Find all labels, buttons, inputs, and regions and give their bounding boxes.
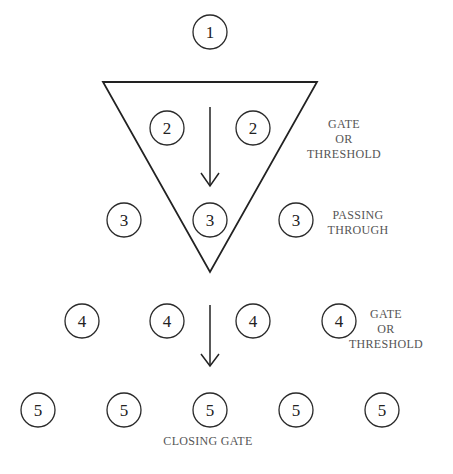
svg-text:OR: OR — [377, 322, 394, 336]
gate-threshold-label-bottom: GATE OR THRESHOLD — [349, 307, 423, 351]
gate-threshold-label-top: GATE OR THRESHOLD — [307, 117, 381, 161]
closing-gate-label: CLOSING GATE — [163, 434, 252, 448]
stage-3-node-right: 3 — [279, 203, 313, 237]
down-arrow-icon — [201, 305, 219, 366]
stage-4-node-1: 4 — [65, 304, 99, 338]
stage-3-node-left: 3 — [107, 203, 141, 237]
svg-text:GATE: GATE — [328, 117, 360, 131]
svg-text:OR: OR — [335, 132, 352, 146]
svg-text:GATE: GATE — [370, 307, 402, 321]
stage-4-label: 4 — [335, 312, 344, 331]
stage-4-node-4: 4 — [322, 304, 356, 338]
stage-1-label: 1 — [206, 23, 215, 42]
stage-2-node-right: 2 — [236, 111, 270, 145]
stage-5-node-4: 5 — [279, 393, 313, 427]
stage-5-node-1: 5 — [21, 393, 55, 427]
gate-diagram: 1 2 2 GATE OR THRESHOLD 3 3 3 PASSING TH… — [0, 0, 453, 474]
stage-2-node-left: 2 — [150, 111, 184, 145]
svg-text:PASSING: PASSING — [332, 208, 383, 222]
passing-through-label: PASSING THROUGH — [328, 208, 389, 237]
stage-1-node: 1 — [193, 15, 227, 49]
stage-5-node-2: 5 — [107, 393, 141, 427]
stage-3-label: 3 — [206, 211, 215, 230]
stage-3-label: 3 — [120, 211, 129, 230]
stage-5-node-3: 5 — [193, 393, 227, 427]
stage-4-label: 4 — [249, 312, 258, 331]
stage-2-label: 2 — [249, 119, 258, 138]
svg-text:THRESHOLD: THRESHOLD — [349, 337, 423, 351]
stage-5-label: 5 — [120, 401, 129, 420]
stage-4-node-2: 4 — [150, 304, 184, 338]
stage-3-node-center: 3 — [193, 203, 227, 237]
stage-3-label: 3 — [292, 211, 301, 230]
svg-text:THRESHOLD: THRESHOLD — [307, 147, 381, 161]
stage-2-label: 2 — [163, 119, 172, 138]
stage-5-label: 5 — [378, 401, 387, 420]
stage-5-node-5: 5 — [365, 393, 399, 427]
stage-5-label: 5 — [206, 401, 215, 420]
stage-4-label: 4 — [163, 312, 172, 331]
stage-5-label: 5 — [34, 401, 43, 420]
down-arrow-icon — [201, 107, 219, 186]
stage-4-node-3: 4 — [236, 304, 270, 338]
stage-4-label: 4 — [78, 312, 87, 331]
svg-text:THROUGH: THROUGH — [328, 223, 389, 237]
stage-5-label: 5 — [292, 401, 301, 420]
